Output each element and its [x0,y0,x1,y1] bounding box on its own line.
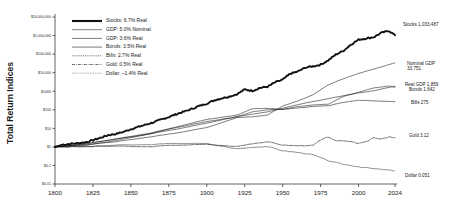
chart-legend: Stocks: 6.7% RealGDP: 5.0% NominalGDP: 3… [72,17,151,75]
x-tick-label: 1975 [314,189,328,196]
y-axis-ticks: $10,000,000$1,000,000$100,000$10,000$100… [31,15,55,186]
end-label-gold: Gold 3.12 [409,133,429,138]
y-tick-label: $10,000,000 [31,15,51,19]
y-axis-title-group: Total Return Indices [5,62,15,144]
legend-label-dollar: Dollar: –1.4% Real [106,70,148,76]
chart-container: Total Return Indices $10,000,000$1,000,0… [0,0,476,217]
end-label-bonds: Bonds 1,642 [409,87,435,92]
x-tick-label: 1825 [86,189,100,196]
y-tick-label: $0.1 [44,164,51,168]
x-axis-ticks: 1800182518501875190019251950197520002024 [48,184,402,196]
y-tick-label: $10,000 [38,71,51,75]
end-label-bills: Bills 275 [411,100,429,105]
y-tick-label: $10 [45,127,51,131]
series-line-bills [55,100,395,147]
legend-label-gdp-nominal: GDP: 5.0% Nominal [106,26,151,32]
end-label-stocks: Stocks 1,033,487 [403,22,439,27]
y-tick-label: $100,000 [36,52,51,56]
x-tick-label: 1800 [48,189,62,196]
x-tick-label: 1925 [238,189,252,196]
legend-label-bills: Bills: 2.7% Real [106,52,141,58]
legend-label-gold: Gold: 0.5% Real [106,61,142,67]
series-end-labels: Stocks 1,033,487Nominal GDP33,751Real GD… [403,22,439,178]
legend-label-bonds: Bonds: 3.5% Real [106,43,146,49]
series-line-bonds [55,86,395,147]
series-line-dollar [55,143,395,171]
x-tick-label: 1950 [276,189,290,196]
y-tick-label: $1000 [41,90,51,94]
y-tick-label: $1 [47,145,51,149]
x-tick-label: 2000 [352,189,366,196]
legend-label-gdp-real: GDP: 3.6% Real [106,35,143,41]
total-return-indices-chart: Total Return Indices $10,000,000$1,000,0… [0,0,476,217]
y-tick-label: $1,000,000 [33,34,51,38]
end-label-dollar: Dollar 0.051 [405,173,430,178]
y-axis-title: Total Return Indices [5,62,15,144]
end-label-nominal-gdp: Nominal GDP33,751 [407,61,435,71]
x-tick-label: 1850 [124,189,138,196]
x-tick-label: 1875 [162,189,176,196]
y-tick-label: $0.01 [42,182,51,186]
legend-label-stocks: Stocks: 6.7% Real [106,17,147,23]
x-tick-label: 2024 [388,189,402,196]
y-tick-label: $100 [43,108,51,112]
x-tick-label: 1900 [200,189,214,196]
